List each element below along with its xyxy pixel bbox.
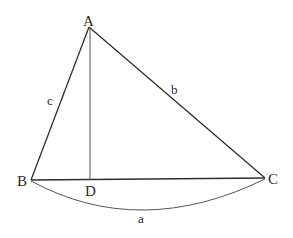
side-ab bbox=[31, 27, 89, 180]
side-bc bbox=[31, 178, 265, 180]
brace-arc-a bbox=[31, 179, 265, 210]
label-side-b: b bbox=[171, 82, 178, 97]
side-ac bbox=[89, 27, 265, 178]
label-side-c: c bbox=[47, 93, 53, 108]
label-vertex-c: C bbox=[268, 171, 278, 187]
label-side-a: a bbox=[138, 211, 144, 226]
label-vertex-b: B bbox=[17, 173, 27, 189]
label-foot-d: D bbox=[85, 183, 96, 199]
triangle-diagram: A B C D a b c bbox=[0, 0, 293, 238]
label-vertex-a: A bbox=[83, 13, 94, 29]
